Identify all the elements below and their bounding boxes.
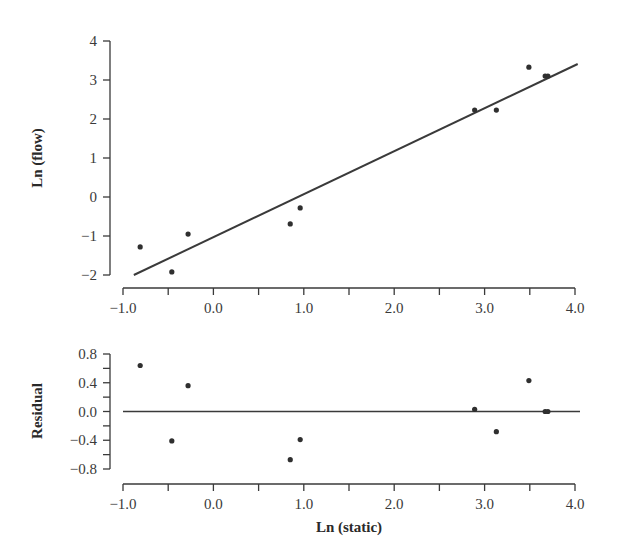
y-tick-label: 0 xyxy=(90,189,98,205)
residual-point xyxy=(185,383,190,388)
residual-data-points xyxy=(138,363,551,462)
y-tick-label: 0.0 xyxy=(78,404,97,420)
residual-point xyxy=(138,363,143,368)
top-panel: 43210−1−2 −1.00.01.02.03.04.0 Ln (flow) xyxy=(29,33,584,316)
regression-residual-chart: 43210−1−2 −1.00.01.02.03.04.0 Ln (flow) … xyxy=(0,0,617,551)
residual-x-axis-title: Ln (static) xyxy=(316,519,382,536)
residual-point xyxy=(526,378,531,383)
x-tick-label: −1.0 xyxy=(109,496,136,512)
y-tick-label: 4 xyxy=(90,33,98,49)
residual-point xyxy=(169,438,174,443)
residual-point xyxy=(472,407,477,412)
y-tick-label: 0.4 xyxy=(78,375,97,391)
top-y-axis-title: Ln (flow) xyxy=(29,128,46,188)
data-point xyxy=(169,269,174,274)
x-tick-label: 0.0 xyxy=(204,300,223,316)
residual-point xyxy=(298,437,303,442)
residual-point xyxy=(288,457,293,462)
top-y-ticks: 43210−1−2 xyxy=(81,33,110,283)
data-point xyxy=(185,231,190,236)
residual-point xyxy=(545,409,550,414)
x-tick-label: 4.0 xyxy=(566,496,585,512)
data-point xyxy=(545,74,550,79)
data-point xyxy=(298,205,303,210)
data-point xyxy=(494,107,499,112)
y-tick-label: 3 xyxy=(90,72,98,88)
data-point xyxy=(472,107,477,112)
x-tick-label: 0.0 xyxy=(204,496,223,512)
data-point xyxy=(138,244,143,249)
y-tick-label: 0.8 xyxy=(78,346,97,362)
y-tick-label: −0.4 xyxy=(70,432,98,448)
x-tick-label: 2.0 xyxy=(385,496,404,512)
x-tick-label: 3.0 xyxy=(475,300,494,316)
residual-panel: 0.80.40.0−0.4−0.8 −1.00.01.02.03.04.0 Re… xyxy=(29,346,584,536)
residual-point xyxy=(494,429,499,434)
y-tick-label: −0.8 xyxy=(70,461,97,477)
x-tick-label: 1.0 xyxy=(294,496,313,512)
regression-line xyxy=(134,64,578,275)
y-tick-label: 2 xyxy=(90,111,98,127)
x-tick-label: 4.0 xyxy=(566,300,585,316)
data-point xyxy=(288,221,293,226)
x-tick-label: 2.0 xyxy=(385,300,404,316)
residual-y-ticks: 0.80.40.0−0.4−0.8 xyxy=(70,346,110,477)
x-tick-label: 3.0 xyxy=(475,496,494,512)
top-x-ticks: −1.00.01.02.03.04.0 xyxy=(109,288,584,316)
y-tick-label: −1 xyxy=(81,228,97,244)
residual-x-ticks: −1.00.01.02.03.04.0 xyxy=(109,484,584,512)
y-tick-label: −2 xyxy=(81,267,97,283)
data-point xyxy=(526,65,531,70)
residual-y-axis-title: Residual xyxy=(29,383,45,439)
y-tick-label: 1 xyxy=(90,150,98,166)
x-tick-label: −1.0 xyxy=(109,300,136,316)
x-tick-label: 1.0 xyxy=(294,300,313,316)
